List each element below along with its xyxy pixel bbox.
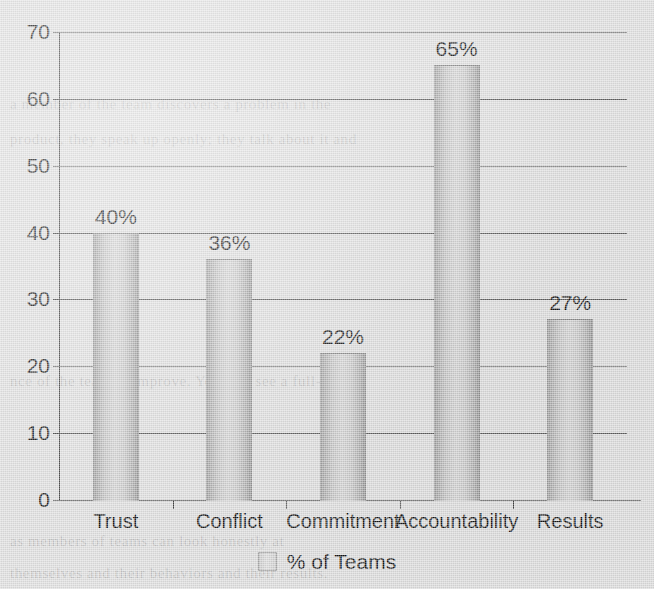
x-axis-tick [400, 500, 401, 509]
gridline [59, 32, 627, 33]
bar-value-label: 27% [525, 292, 615, 313]
y-axis-tick-label: 20 [0, 355, 50, 376]
legend-label: % of Teams [287, 551, 396, 572]
y-axis-tick [53, 433, 60, 434]
y-axis-tick-label: 30 [0, 288, 50, 309]
x-axis-tick [286, 500, 287, 509]
bar-value-label: 22% [298, 326, 388, 347]
bar-commitment [320, 353, 366, 501]
y-axis-tick [53, 32, 60, 33]
y-axis-tick-label: 50 [0, 155, 50, 176]
bar-value-label: 36% [184, 232, 274, 253]
gridline [59, 99, 627, 100]
bar-value-label: 65% [412, 38, 502, 59]
y-axis-tick [53, 366, 60, 367]
bar-trust [93, 233, 139, 501]
bar-value-label: 40% [71, 206, 161, 227]
y-axis-tick [53, 500, 60, 501]
y-axis-tick [53, 233, 60, 234]
y-axis-tick-label: 0 [0, 489, 50, 510]
y-axis-tick-label: 70 [0, 21, 50, 42]
legend-swatch-icon [258, 552, 277, 571]
bar-conflict [206, 259, 252, 501]
y-axis-tick-label: 10 [0, 422, 50, 443]
y-axis-tick [53, 166, 60, 167]
y-axis-tick-label: 40 [0, 222, 50, 243]
y-axis-tick [53, 99, 60, 100]
bar-results [547, 319, 593, 501]
gridline [59, 233, 627, 234]
y-axis-tick-label: 60 [0, 88, 50, 109]
y-axis-tick [53, 299, 60, 300]
chart-legend: % of Teams [0, 551, 654, 572]
bar-accountability [434, 65, 480, 501]
x-axis-tick [173, 500, 174, 509]
x-axis-category-label: Results [490, 511, 650, 531]
gridline [59, 166, 627, 167]
plot-area: 01020304050607040%Trust36%Conflict22%Com… [0, 0, 654, 589]
bar-chart-figure: a member of the team discovers a problem… [0, 0, 654, 589]
x-axis-tick [513, 500, 514, 509]
